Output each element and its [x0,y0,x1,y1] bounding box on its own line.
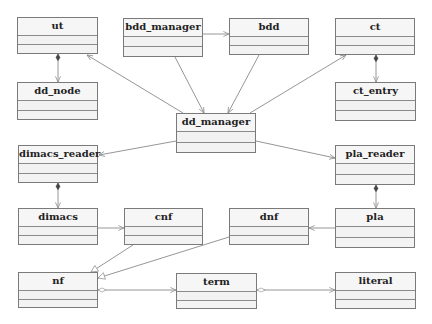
attributes-compartment [125,227,202,236]
operations-compartment [177,143,255,153]
class-name: dd_manager [177,114,255,132]
class-name: nf [19,273,97,291]
operations-compartment [19,300,97,308]
attributes-compartment [177,132,255,143]
attributes-compartment [18,36,97,45]
class-name: bdd [230,19,308,37]
attributes-compartment [18,101,97,111]
class-dd-manager[interactable]: dd_manager [176,113,256,153]
edge-dd-manager-to-pla-reader [256,141,335,158]
edge-bdd-manager-to-dd-manager [175,57,204,113]
attributes-compartment [336,227,414,238]
operations-compartment [230,46,308,54]
class-ct[interactable]: ct [335,18,415,55]
class-name: ct [336,19,414,37]
edge-cnf-to-nf [91,245,133,272]
class-ct-entry[interactable]: ct_entry [335,82,416,121]
class-dnf[interactable]: dnf [229,208,309,245]
operations-compartment [177,301,256,309]
class-name: dnf [230,209,308,227]
attributes-compartment [19,227,97,236]
edge-dd-manager-to-ut [87,55,183,113]
class-nf[interactable]: nf [18,272,98,308]
class-name: ut [18,18,97,36]
class-name: ct_entry [336,83,415,101]
class-pla[interactable]: pla [335,208,415,248]
edge-bdd-to-dd-manager [228,55,259,113]
attributes-compartment [336,291,415,300]
operations-compartment [336,175,414,185]
class-name: pla_reader [336,146,414,164]
class-literal[interactable]: literal [335,272,416,309]
operations-compartment [19,174,97,183]
class-pla-reader[interactable]: pla_reader [335,145,415,185]
attributes-compartment [336,101,415,111]
attributes-compartment [230,37,308,46]
class-dimacs-reader[interactable]: dimacs_reader [18,145,98,183]
class-name: dimacs_reader [19,146,97,164]
attributes-compartment [124,37,202,47]
class-name: term [177,274,256,292]
class-term[interactable]: term [176,273,257,309]
attributes-compartment [19,291,97,300]
operations-compartment [18,111,97,120]
class-bdd[interactable]: bdd [229,18,309,55]
attributes-compartment [336,164,414,175]
attributes-compartment [177,292,256,301]
class-name: cnf [125,209,202,227]
class-bdd-manager[interactable]: bdd_manager [123,18,203,57]
attributes-compartment [230,227,308,236]
class-dimacs[interactable]: dimacs [18,208,98,245]
class-name: bdd_manager [124,19,202,37]
class-cnf[interactable]: cnf [124,208,203,245]
class-name: pla [336,209,414,227]
class-dd-node[interactable]: dd_node [17,82,98,120]
operations-compartment [18,45,97,53]
edge-dd-manager-to-dimacs-reader [99,141,176,155]
operations-compartment [125,236,202,244]
operations-compartment [124,47,202,56]
operations-compartment [336,111,415,120]
operations-compartment [336,238,414,248]
operations-compartment [230,236,308,244]
operations-compartment [19,236,97,244]
class-name: dimacs [19,209,97,227]
operations-compartment [336,300,415,308]
operations-compartment [336,46,414,54]
class-ut[interactable]: ut [17,17,98,54]
class-name: dd_node [18,83,97,101]
attributes-compartment [336,37,414,46]
class-name: literal [336,273,415,291]
edge-dd-manager-to-ct [250,55,346,113]
attributes-compartment [19,164,97,174]
